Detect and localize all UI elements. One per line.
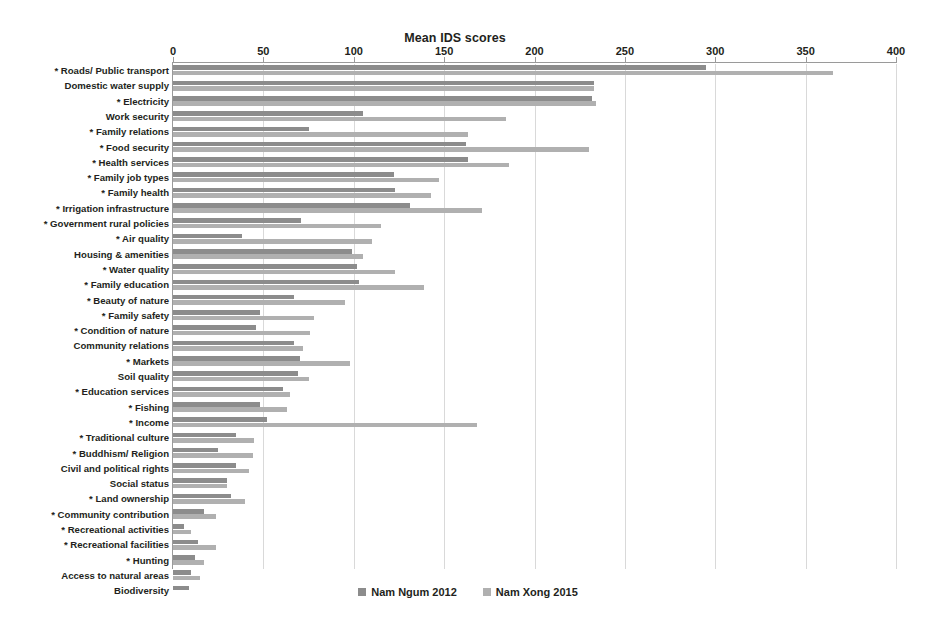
bar-series-b [173, 545, 216, 550]
bar-series-b [173, 453, 253, 458]
bar-series-a [173, 555, 195, 560]
bar-series-a [173, 264, 357, 269]
chart-row: * Electricity [173, 95, 896, 110]
chart-row: * Family relations [173, 125, 896, 140]
category-label: * Roads/ Public transport [0, 63, 169, 78]
category-label: Civil and political rights [0, 461, 169, 476]
bar-series-a [173, 65, 706, 70]
bar-series-a [173, 203, 410, 208]
bar-series-b [173, 101, 596, 106]
plot-area: * Roads/ Public transportDomestic water … [173, 64, 896, 569]
category-label: * Fishing [0, 400, 169, 415]
x-tick-label-350: 350 [796, 45, 814, 57]
bar-series-a [173, 310, 260, 315]
bar-series-a [173, 81, 594, 86]
bar-series-b [173, 147, 589, 152]
bar-series-b [173, 331, 310, 336]
chart-row: * Air quality [173, 232, 896, 247]
x-tick-mark-400 [896, 57, 897, 63]
x-tick-mark-250 [625, 57, 626, 63]
bar-series-b [173, 499, 245, 504]
category-label: * Community contribution [0, 507, 169, 522]
bar-series-b [173, 377, 309, 382]
bar-series-b [173, 469, 249, 474]
x-tick-mark-300 [715, 57, 716, 63]
chart-row: * Hunting [173, 554, 896, 569]
category-label: * Family job types [0, 170, 169, 185]
category-label: * Hunting [0, 553, 169, 568]
chart-row: * Family health [173, 186, 896, 201]
chart-row: * Land ownership [173, 492, 896, 507]
category-label: Work security [0, 109, 169, 124]
chart-row: Work security [173, 110, 896, 125]
category-label: * Buddhism/ Religion [0, 446, 169, 461]
chart-row: * Family education [173, 278, 896, 293]
legend-label: Nam Xong 2015 [496, 586, 578, 598]
bar-series-a [173, 540, 198, 545]
bar-series-b [173, 300, 345, 305]
bar-series-a [173, 371, 298, 376]
x-tick-mark-50 [263, 57, 264, 63]
bar-series-a [173, 188, 395, 193]
bar-series-b [173, 560, 204, 565]
bar-series-a [173, 448, 218, 453]
chart-row: * Income [173, 416, 896, 431]
category-label: * Recreational activities [0, 522, 169, 537]
bar-series-a [173, 325, 256, 330]
legend-item[interactable]: Nam Xong 2015 [483, 586, 578, 598]
bar-series-b [173, 346, 303, 351]
chart-legend: Nam Ngum 2012Nam Xong 2015 [0, 586, 936, 598]
gridline-400 [896, 64, 897, 569]
bar-series-a [173, 463, 236, 468]
x-tick-label-200: 200 [525, 45, 543, 57]
category-label: * Government rural policies [0, 216, 169, 231]
category-label: * Air quality [0, 231, 169, 246]
bar-series-a [173, 249, 352, 254]
category-label: * Irrigation infrastructure [0, 201, 169, 216]
category-label: * Recreational facilities [0, 537, 169, 552]
bar-series-a [173, 111, 363, 116]
x-tick-mark-200 [535, 57, 536, 63]
category-label: Access to natural areas [0, 568, 169, 583]
chart-row: * Community contribution [173, 508, 896, 523]
legend-label: Nam Ngum 2012 [371, 586, 457, 598]
bar-series-b [173, 178, 439, 183]
chart-row: * Recreational facilities [173, 538, 896, 553]
bar-series-a [173, 478, 227, 483]
bar-series-a [173, 341, 294, 346]
category-label: Housing & amenities [0, 247, 169, 262]
bar-series-b [173, 316, 314, 321]
bar-series-b [173, 576, 200, 581]
chart-row: * Roads/ Public transport [173, 64, 896, 79]
x-tick-label-400: 400 [887, 45, 905, 57]
chart-row: * Family safety [173, 309, 896, 324]
bar-series-b [173, 484, 227, 489]
bar-series-a [173, 356, 300, 361]
category-label: * Electricity [0, 94, 169, 109]
category-label: * Traditional culture [0, 430, 169, 445]
bar-series-b [173, 132, 468, 137]
bar-series-a [173, 96, 592, 101]
legend-swatch-icon [483, 588, 491, 596]
bar-series-a [173, 234, 242, 239]
legend-item[interactable]: Nam Ngum 2012 [358, 586, 457, 598]
category-label: Community relations [0, 338, 169, 353]
x-tick-mark-350 [806, 57, 807, 63]
category-label: * Family relations [0, 124, 169, 139]
chart-row: Civil and political rights [173, 462, 896, 477]
x-tick-label-100: 100 [345, 45, 363, 57]
category-label: Social status [0, 476, 169, 491]
category-label: * Water quality [0, 262, 169, 277]
chart-row: * Traditional culture [173, 431, 896, 446]
bar-series-b [173, 163, 509, 168]
bar-series-b [173, 224, 381, 229]
chart-row: * Buddhism/ Religion [173, 447, 896, 462]
x-tick-label-50: 50 [257, 45, 269, 57]
category-label: * Condition of nature [0, 323, 169, 338]
bar-series-b [173, 285, 424, 290]
x-tick-mark-150 [444, 57, 445, 63]
bar-series-a [173, 295, 294, 300]
bar-series-a [173, 509, 204, 514]
bar-series-a [173, 218, 301, 223]
chart-row: * Condition of nature [173, 324, 896, 339]
